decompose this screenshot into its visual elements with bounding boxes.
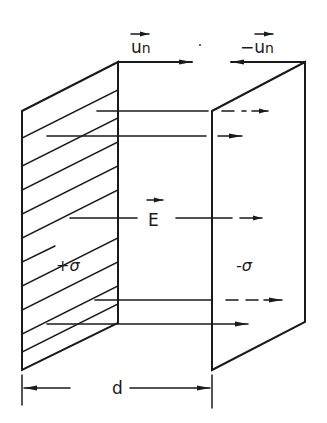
plate-hatching [22, 90, 118, 352]
field-label: E [148, 210, 159, 230]
capacitor-diagram: un −un E +σ -σ d [0, 0, 327, 423]
separation-label: d [112, 378, 123, 398]
stray-dot [199, 44, 201, 46]
positive-charge-label: +σ [56, 256, 80, 275]
negative-charge-label: -σ [236, 256, 253, 275]
field-lines [47, 111, 282, 324]
diagram-svg: un −un E +σ -σ d [0, 0, 327, 423]
unit-normal-right-label: −un [240, 37, 274, 57]
unit-normal-left-label: un [131, 37, 151, 57]
